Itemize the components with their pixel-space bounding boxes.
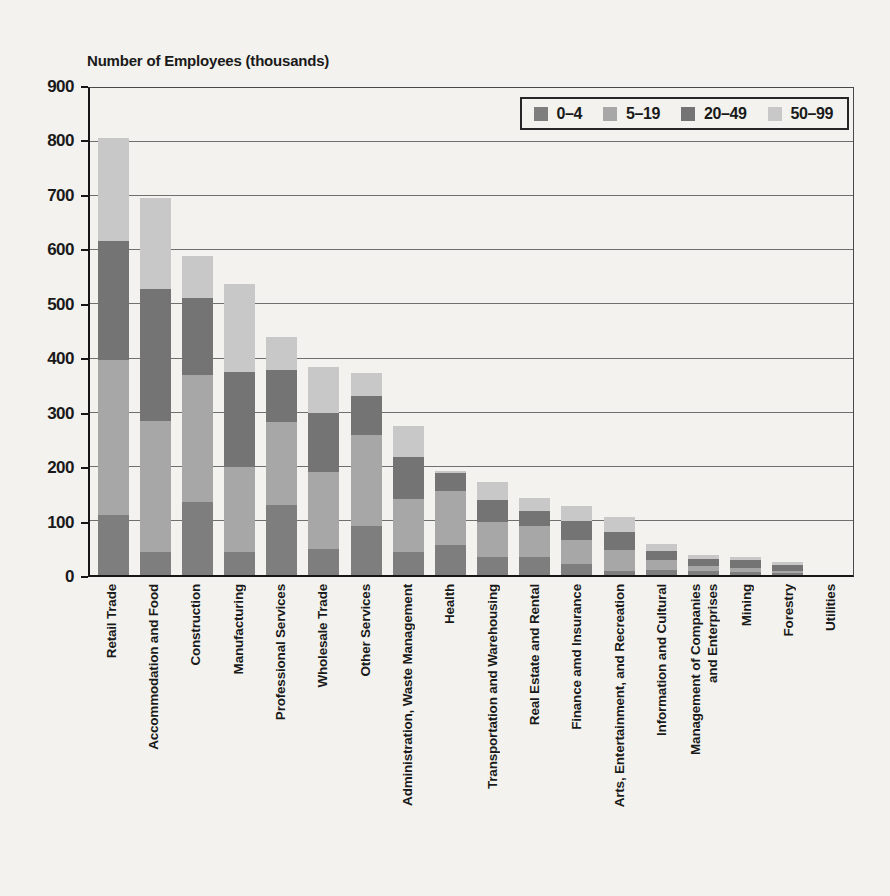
- y-tick-label-700: 700: [14, 186, 74, 206]
- y-tick-600: [81, 249, 88, 251]
- x-label-cell-2: Construction: [175, 584, 217, 874]
- bar-segment-50–99: [604, 517, 635, 532]
- y-tick-label-900: 900: [14, 77, 74, 97]
- y-tick-700: [81, 195, 88, 197]
- x-label-cell-11: Finance amd Insurance: [556, 584, 598, 874]
- bar-segment-20–49: [561, 521, 592, 540]
- bar-segment-0–4: [98, 515, 129, 575]
- x-axis-label-line: Other Services: [357, 584, 374, 677]
- y-tick-300: [81, 413, 88, 415]
- bar-Manufacturing: [224, 88, 255, 575]
- y-tick-800: [81, 140, 88, 142]
- x-axis-label: Transportation and Warehousing: [484, 584, 501, 789]
- x-axis-label-line: Retail Trade: [103, 584, 120, 658]
- legend-label-5–19: 5–19: [626, 105, 660, 123]
- bar-Wholesale Trade: [308, 88, 339, 575]
- legend-swatch-20–49: [681, 107, 695, 121]
- y-tick-400: [81, 358, 88, 360]
- bar-segment-5–19: [646, 560, 677, 570]
- y-tick-label-500: 500: [14, 295, 74, 315]
- bar-segment-50–99: [477, 482, 508, 500]
- x-label-cell-6: Other Services: [344, 584, 386, 874]
- x-axis-label: Accommodation and Food: [145, 584, 162, 750]
- bar-segment-20–49: [519, 511, 550, 526]
- bar-cell-6: [345, 88, 387, 575]
- x-axis-label: Wholesale Trade: [314, 584, 331, 688]
- bar-cell-2: [176, 88, 218, 575]
- bar-segment-0–4: [182, 502, 213, 575]
- bar-segment-5–19: [561, 540, 592, 564]
- bar-segment-0–4: [351, 526, 382, 575]
- bar-Accommodation and Food: [140, 88, 171, 575]
- bar-cell-0: [92, 88, 134, 575]
- legend-label-50–99: 50–99: [791, 105, 834, 123]
- y-tick-label-0: 0: [14, 567, 74, 587]
- x-axis-label-line: Manufacturing: [230, 584, 247, 674]
- bar-Administration, Waste Management: [393, 88, 424, 575]
- x-axis-label: Construction: [187, 584, 204, 666]
- bar-segment-50–99: [140, 198, 171, 289]
- y-tick-900: [81, 86, 88, 88]
- x-axis-label: Real Estate and Rental: [526, 584, 543, 725]
- bar-cell-7: [387, 88, 429, 575]
- x-axis-label-line: Management of Companies: [687, 584, 704, 755]
- bar-segment-50–99: [182, 256, 213, 298]
- legend-swatch-5–19: [603, 107, 617, 121]
- bar-cell-11: [556, 88, 598, 575]
- x-axis-label-line: Finance amd Insurance: [568, 584, 585, 730]
- legend-label-20–49: 20–49: [704, 105, 747, 123]
- bar-segment-20–49: [688, 559, 719, 567]
- x-label-cell-12: Arts, Entertainment, and Recreation: [598, 584, 640, 874]
- x-axis-labels: Retail TradeAccommodation and FoodConstr…: [88, 584, 854, 874]
- bar-segment-5–19: [519, 526, 550, 557]
- bar-segment-5–19: [98, 360, 129, 515]
- bar-segment-0–4: [393, 552, 424, 575]
- bar-segment-20–49: [477, 500, 508, 522]
- x-axis-label: Professional Services: [272, 584, 289, 720]
- y-tick-label-100: 100: [14, 513, 74, 533]
- bar-segment-0–4: [646, 570, 677, 575]
- x-axis-label-line: Utilities: [822, 584, 839, 631]
- bar-Professional Services: [266, 88, 297, 575]
- x-label-cell-14: Management of Companiesand Enterprises: [683, 584, 725, 874]
- bar-cell-13: [640, 88, 682, 575]
- y-tick-label-400: 400: [14, 349, 74, 369]
- bar-segment-20–49: [604, 532, 635, 550]
- x-label-cell-16: Forestry: [767, 584, 809, 874]
- bar-segment-5–19: [477, 522, 508, 557]
- bar-segment-20–49: [351, 396, 382, 435]
- y-tick-label-800: 800: [14, 131, 74, 151]
- bar-segment-0–4: [266, 505, 297, 575]
- x-label-cell-10: Real Estate and Rental: [513, 584, 555, 874]
- x-axis-label: Mining: [738, 584, 755, 626]
- legend-item-50–99: 50–99: [768, 105, 834, 123]
- bar-Mining: [730, 88, 761, 575]
- bar-segment-20–49: [393, 457, 424, 499]
- legend: 0–45–1920–4950–99: [520, 97, 850, 130]
- x-axis-label: Information and Cultural: [653, 584, 670, 736]
- x-axis-label-line: Real Estate and Rental: [526, 584, 543, 725]
- legend-item-20–49: 20–49: [681, 105, 747, 123]
- plot-area: 0–45–1920–4950–99: [88, 87, 854, 577]
- bar-segment-20–49: [140, 289, 171, 420]
- bar-Information and Cultural: [646, 88, 677, 575]
- bar-segment-50–99: [561, 506, 592, 521]
- bar-Real Estate and Rental: [519, 88, 550, 575]
- x-axis-label: Health: [441, 584, 458, 624]
- y-axis: 0100200300400500600700800900: [0, 87, 88, 577]
- legend-swatch-0–4: [534, 107, 548, 121]
- bar-cell-9: [472, 88, 514, 575]
- x-axis-label-line: Health: [441, 584, 458, 624]
- x-label-cell-0: Retail Trade: [90, 584, 132, 874]
- x-label-cell-15: Mining: [725, 584, 767, 874]
- y-tick-100: [81, 522, 88, 524]
- x-axis-label: Forestry: [780, 584, 797, 636]
- chart-title: Number of Employees (thousands): [87, 52, 329, 69]
- bar-Retail Trade: [98, 88, 129, 575]
- bar-segment-0–4: [730, 572, 761, 575]
- bar-Utilities: [815, 88, 846, 575]
- bar-cell-10: [514, 88, 556, 575]
- bar-cell-17: [809, 88, 851, 575]
- x-axis-label-line: Administration, Waste Management: [399, 584, 416, 806]
- bar-segment-20–49: [435, 473, 466, 491]
